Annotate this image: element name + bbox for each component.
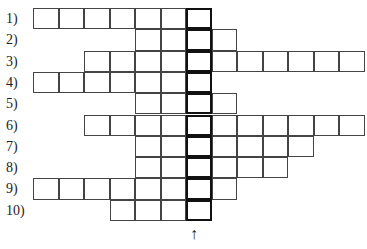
arrow-up-icon: ↑ bbox=[190, 224, 198, 244]
grid-cell[interactable] bbox=[135, 136, 161, 157]
grid-cell[interactable] bbox=[263, 157, 289, 178]
keyword-cell[interactable] bbox=[186, 178, 212, 199]
keyword-cell[interactable] bbox=[186, 93, 212, 114]
grid-cell[interactable] bbox=[212, 136, 238, 157]
grid-cell[interactable] bbox=[263, 115, 289, 136]
row-label: 9) bbox=[6, 178, 32, 199]
grid-cell[interactable] bbox=[84, 51, 110, 72]
grid-cell[interactable] bbox=[161, 8, 187, 29]
row-label: 3) bbox=[6, 51, 32, 72]
keyword-cell[interactable] bbox=[186, 51, 212, 72]
grid-cell[interactable] bbox=[59, 178, 85, 199]
keyword-cell[interactable] bbox=[186, 136, 212, 157]
grid-cell[interactable] bbox=[339, 115, 365, 136]
grid-cell[interactable] bbox=[84, 8, 110, 29]
row-label: 2) bbox=[6, 29, 32, 50]
grid-cell[interactable] bbox=[135, 115, 161, 136]
grid-cell[interactable] bbox=[237, 51, 263, 72]
grid-cell[interactable] bbox=[110, 115, 136, 136]
grid-cell[interactable] bbox=[110, 72, 136, 93]
grid-cell[interactable] bbox=[33, 8, 59, 29]
grid-cell[interactable] bbox=[237, 136, 263, 157]
grid-cell[interactable] bbox=[288, 115, 314, 136]
grid-cell[interactable] bbox=[33, 178, 59, 199]
grid-cell[interactable] bbox=[110, 51, 136, 72]
row-label: 10) bbox=[6, 200, 32, 221]
grid-cell[interactable] bbox=[263, 51, 289, 72]
grid-cell[interactable] bbox=[314, 51, 340, 72]
grid-cell[interactable] bbox=[135, 93, 161, 114]
grid-cell[interactable] bbox=[212, 51, 238, 72]
grid-cell[interactable] bbox=[84, 115, 110, 136]
grid-cell[interactable] bbox=[161, 29, 187, 50]
row-label: 7) bbox=[6, 136, 32, 157]
keyword-cell[interactable] bbox=[186, 200, 212, 221]
grid-cell[interactable] bbox=[135, 8, 161, 29]
grid-cell[interactable] bbox=[135, 72, 161, 93]
grid-cell[interactable] bbox=[161, 51, 187, 72]
grid-cell[interactable] bbox=[212, 157, 238, 178]
grid-cell[interactable] bbox=[212, 178, 238, 199]
grid-cell[interactable] bbox=[110, 200, 136, 221]
grid-cell[interactable] bbox=[161, 136, 187, 157]
grid-cell[interactable] bbox=[135, 157, 161, 178]
grid-cell[interactable] bbox=[339, 51, 365, 72]
grid-cell[interactable] bbox=[110, 178, 136, 199]
row-label: 8) bbox=[6, 157, 32, 178]
grid-cell[interactable] bbox=[161, 72, 187, 93]
grid-cell[interactable] bbox=[135, 178, 161, 199]
grid-cell[interactable] bbox=[161, 200, 187, 221]
grid-cell[interactable] bbox=[212, 115, 238, 136]
grid-cell[interactable] bbox=[33, 72, 59, 93]
grid-cell[interactable] bbox=[212, 93, 238, 114]
grid-cell[interactable] bbox=[135, 29, 161, 50]
row-label: 6) bbox=[6, 115, 32, 136]
grid-cell[interactable] bbox=[288, 136, 314, 157]
grid-cell[interactable] bbox=[288, 51, 314, 72]
keyword-cell[interactable] bbox=[186, 115, 212, 136]
grid-cell[interactable] bbox=[84, 178, 110, 199]
grid-cell[interactable] bbox=[110, 8, 136, 29]
row-label: 1) bbox=[6, 8, 32, 29]
grid-cell[interactable] bbox=[59, 8, 85, 29]
keyword-cell[interactable] bbox=[186, 8, 212, 29]
grid-cell[interactable] bbox=[161, 157, 187, 178]
grid-cell[interactable] bbox=[212, 29, 238, 50]
grid-cell[interactable] bbox=[59, 72, 85, 93]
keyword-cell[interactable] bbox=[186, 72, 212, 93]
keyword-cell[interactable] bbox=[186, 157, 212, 178]
row-label: 5) bbox=[6, 93, 32, 114]
grid-cell[interactable] bbox=[314, 115, 340, 136]
grid-cell[interactable] bbox=[135, 51, 161, 72]
grid-cell[interactable] bbox=[237, 157, 263, 178]
keyword-cell[interactable] bbox=[186, 29, 212, 50]
grid-cell[interactable] bbox=[135, 200, 161, 221]
grid-cell[interactable] bbox=[161, 115, 187, 136]
grid-cell[interactable] bbox=[237, 115, 263, 136]
grid-cell[interactable] bbox=[263, 136, 289, 157]
grid-cell[interactable] bbox=[161, 93, 187, 114]
grid-cell[interactable] bbox=[84, 72, 110, 93]
row-label: 4) bbox=[6, 72, 32, 93]
grid-cell[interactable] bbox=[161, 178, 187, 199]
